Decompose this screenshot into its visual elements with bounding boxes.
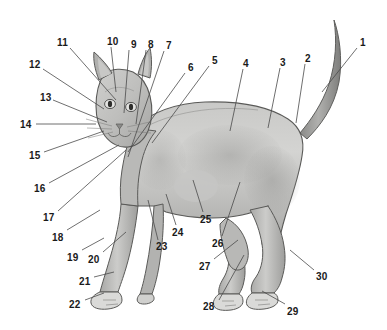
callout-label-7: 7 bbox=[166, 41, 172, 51]
leader-line-30 bbox=[290, 250, 314, 270]
callout-label-18: 18 bbox=[52, 233, 64, 243]
callout-label-27: 27 bbox=[199, 262, 211, 272]
callout-label-5: 5 bbox=[212, 56, 218, 66]
callout-label-6: 6 bbox=[188, 63, 194, 73]
leader-line-18 bbox=[67, 210, 100, 230]
callout-label-21: 21 bbox=[79, 277, 91, 287]
callout-label-30: 30 bbox=[316, 272, 328, 282]
callout-label-20: 20 bbox=[88, 255, 100, 265]
callout-label-26: 26 bbox=[212, 239, 224, 249]
callout-label-19: 19 bbox=[67, 253, 79, 263]
callout-label-8: 8 bbox=[148, 40, 154, 50]
callout-label-13: 13 bbox=[40, 93, 52, 103]
callout-label-15: 15 bbox=[29, 151, 41, 161]
callout-label-23: 23 bbox=[156, 242, 168, 252]
callout-label-2: 2 bbox=[305, 54, 311, 64]
leader-line-2 bbox=[296, 64, 305, 123]
callout-label-10: 10 bbox=[107, 37, 119, 47]
callout-label-11: 11 bbox=[57, 38, 68, 48]
callout-label-9: 9 bbox=[131, 40, 137, 50]
callout-label-17: 17 bbox=[43, 213, 55, 223]
callout-label-16: 16 bbox=[34, 184, 46, 194]
leader-line-16 bbox=[49, 145, 119, 183]
callout-label-1: 1 bbox=[360, 38, 366, 48]
callout-label-25: 25 bbox=[200, 215, 212, 225]
callout-label-28: 28 bbox=[203, 302, 215, 312]
callout-label-4: 4 bbox=[243, 59, 249, 69]
leader-line-15 bbox=[44, 131, 104, 152]
callout-label-29: 29 bbox=[287, 307, 299, 317]
leader-line-19 bbox=[82, 238, 104, 250]
leader-line-12 bbox=[43, 69, 104, 109]
cat-hind-legs bbox=[213, 206, 285, 310]
callout-label-14: 14 bbox=[20, 120, 32, 130]
cat-anatomy-figure: 1234567891011121314151617181920212223242… bbox=[0, 0, 387, 330]
leader-line-17 bbox=[58, 150, 126, 211]
callout-label-22: 22 bbox=[69, 300, 81, 310]
cat-tail bbox=[300, 20, 341, 139]
callout-label-3: 3 bbox=[280, 58, 286, 68]
callout-label-12: 12 bbox=[29, 60, 41, 70]
callout-label-24: 24 bbox=[172, 228, 184, 238]
cat-illustration bbox=[0, 0, 387, 330]
